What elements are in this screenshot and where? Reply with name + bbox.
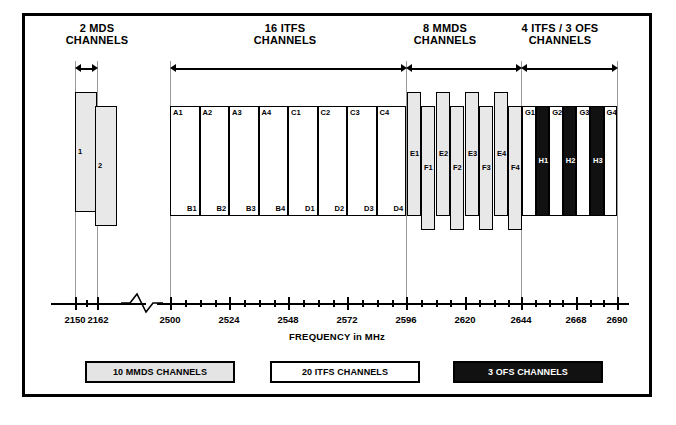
legend-label: 3 OFS CHANNELS bbox=[488, 367, 568, 377]
axis-label-2548: 2548 bbox=[277, 314, 298, 325]
axis-tick-minor bbox=[494, 300, 496, 307]
channel-label: H1 bbox=[539, 157, 549, 165]
channel-bar-itfs-7: C3 D3 bbox=[347, 106, 377, 216]
channel-label: G2 bbox=[552, 109, 562, 117]
channel-bar-mmds-e4: E4 bbox=[494, 92, 508, 216]
channel-label: G4 bbox=[607, 109, 617, 117]
channel-label-top: A1 bbox=[173, 109, 183, 117]
span-arrow-mmds bbox=[406, 64, 522, 73]
channel-label: H2 bbox=[566, 157, 576, 165]
channel-bar-mmds-e3: E3 bbox=[465, 92, 479, 216]
axis-label-2572: 2572 bbox=[336, 314, 357, 325]
channel-bar-itfs-3: A3 B3 bbox=[229, 106, 259, 216]
channel-label: F3 bbox=[482, 164, 491, 172]
channel-label: E4 bbox=[497, 150, 506, 158]
axis-tick-2162 bbox=[97, 297, 99, 310]
section-title-mds: 2 MDS CHANNELS bbox=[47, 22, 147, 46]
axis-label-2690: 2690 bbox=[606, 314, 627, 325]
channel-label-bottom: B1 bbox=[187, 205, 197, 213]
channel-label-bottom: D3 bbox=[364, 205, 374, 213]
axis-tick-minor bbox=[185, 300, 187, 307]
legend-item-itfs: 20 ITFS CHANNELS bbox=[270, 361, 420, 383]
channel-bar-ofs-g4: G4 bbox=[604, 106, 618, 216]
legend-label: 10 MMDS CHANNELS bbox=[113, 367, 207, 377]
channel-label-bottom: B4 bbox=[276, 205, 286, 213]
axis-tick-minor bbox=[603, 300, 605, 307]
axis-tick-minor bbox=[421, 300, 423, 307]
axis-tick-minor bbox=[562, 300, 564, 307]
channel-bar-mmds-f1: F1 bbox=[421, 106, 435, 230]
span-arrow-mds bbox=[75, 64, 98, 73]
channel-label-top: C2 bbox=[321, 109, 331, 117]
channel-label-bottom: B3 bbox=[246, 205, 256, 213]
channel-bar-itfs-4: A4 B4 bbox=[259, 106, 289, 216]
axis-tick-minor bbox=[200, 300, 202, 307]
channel-bar-mds-1: 1 bbox=[75, 92, 97, 212]
channel-bar-ofs-g1: G1 bbox=[522, 106, 536, 216]
channel-bar-itfs-2: A2 B2 bbox=[200, 106, 230, 216]
channel-bar-itfs-6: C2 D2 bbox=[318, 106, 348, 216]
axis-tick-2668 bbox=[576, 297, 578, 310]
section-title-mmds: 8 MMDS CHANNELS bbox=[380, 22, 510, 46]
axis-tick-2620 bbox=[465, 297, 467, 310]
axis-tick-minor bbox=[318, 300, 320, 307]
axis-tick-minor bbox=[436, 300, 438, 307]
axis-break-icon bbox=[121, 292, 163, 316]
axis-tick-2596 bbox=[406, 297, 408, 310]
figure-frame: 2 MDS CHANNELS 16 ITFS CHANNELS 8 MMDS C… bbox=[22, 13, 652, 397]
axis-tick-minor bbox=[362, 300, 364, 307]
axis-tick-minor bbox=[377, 300, 379, 307]
section-title-ofs: 4 ITFS / 3 OFS CHANNELS bbox=[495, 22, 625, 46]
channel-label: 1 bbox=[78, 148, 82, 156]
axis-label-2596: 2596 bbox=[395, 314, 416, 325]
channel-bar-mmds-e1: E1 bbox=[407, 92, 421, 216]
channel-bar-mmds-f2: F2 bbox=[450, 106, 464, 230]
channel-bar-mmds-f3: F3 bbox=[479, 106, 493, 230]
channel-label: E3 bbox=[468, 150, 477, 158]
channel-label: 2 bbox=[98, 162, 102, 170]
channel-label: E1 bbox=[410, 150, 419, 158]
channel-label-bottom: D2 bbox=[335, 205, 345, 213]
channel-label: F4 bbox=[511, 164, 520, 172]
axis-tick-minor bbox=[508, 300, 510, 307]
axis-tick-2524 bbox=[229, 297, 231, 310]
axis-tick-minor bbox=[590, 300, 592, 307]
channel-bar-ofs-h2: H2 bbox=[563, 106, 577, 216]
channel-label-top: C4 bbox=[380, 109, 390, 117]
channel-bar-itfs-5: C1 D1 bbox=[288, 106, 318, 216]
channel-label-top: A3 bbox=[232, 109, 242, 117]
axis-tick-minor bbox=[86, 300, 88, 307]
axis-tick-minor bbox=[303, 300, 305, 307]
axis-label-2500: 2500 bbox=[159, 314, 180, 325]
channel-label-bottom: B2 bbox=[217, 205, 227, 213]
axis-tick-minor bbox=[535, 300, 537, 307]
axis-tick-2548 bbox=[288, 297, 290, 310]
axis-label-2162: 2162 bbox=[87, 314, 108, 325]
axis-label-2620: 2620 bbox=[454, 314, 475, 325]
legend-label: 20 ITFS CHANNELS bbox=[302, 367, 388, 377]
channel-label-bottom: D1 bbox=[305, 205, 315, 213]
channel-bar-mds-2: 2 bbox=[95, 106, 117, 226]
axis-tick-minor bbox=[215, 300, 217, 307]
channel-label: F1 bbox=[424, 164, 433, 172]
axis-tick-2690 bbox=[617, 297, 619, 310]
channel-label: G1 bbox=[525, 109, 535, 117]
channel-bar-itfs-1: A1 B1 bbox=[170, 106, 200, 216]
axis-tick-minor bbox=[274, 300, 276, 307]
channel-bar-mmds-e2: E2 bbox=[436, 92, 450, 216]
section-title-itfs: 16 ITFS CHANNELS bbox=[185, 22, 385, 46]
channel-label: E2 bbox=[439, 150, 448, 158]
legend-item-mmds: 10 MMDS CHANNELS bbox=[85, 361, 235, 383]
legend-item-ofs: 3 OFS CHANNELS bbox=[453, 361, 603, 383]
channel-bar-mmds-f4: F4 bbox=[508, 106, 522, 230]
axis-tick-minor bbox=[479, 300, 481, 307]
channel-bar-itfs-8: C4 D4 bbox=[377, 106, 407, 216]
span-arrow-itfs bbox=[170, 64, 407, 73]
axis-tick-minor bbox=[450, 300, 452, 307]
axis-label-2524: 2524 bbox=[218, 314, 239, 325]
axis-tick-minor bbox=[549, 300, 551, 307]
figure-root: 2 MDS CHANNELS 16 ITFS CHANNELS 8 MMDS C… bbox=[0, 0, 676, 425]
span-arrow-ofs bbox=[521, 64, 618, 73]
axis-label-2644: 2644 bbox=[510, 314, 531, 325]
channel-label-top: C3 bbox=[350, 109, 360, 117]
